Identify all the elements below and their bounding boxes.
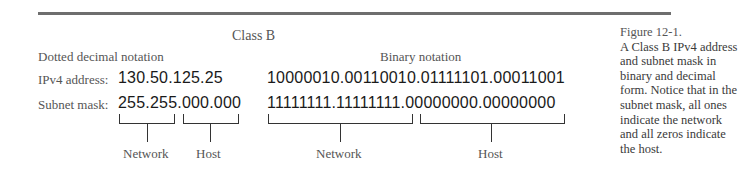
subnet-mask-decimal-host: .000.000: [177, 94, 241, 111]
ipv4-address-binary: 10000010.00110010.01111101.00011001: [267, 69, 565, 87]
decimal-network-stem: [147, 124, 148, 142]
binary-network-stem: [340, 124, 341, 142]
ipv4-address-decimal: 130.50.125.25: [118, 69, 223, 87]
figure-number: Figure 12-1.: [620, 25, 738, 40]
binary-network-label: Network: [316, 146, 362, 162]
caption-text: A Class B IPv4 address and subnet mask i…: [620, 40, 738, 157]
subnet-mask-label: Subnet mask:: [38, 97, 108, 113]
decimal-host-bracket: [183, 114, 239, 124]
decimal-network-bracket: [119, 114, 175, 124]
decimal-host-stem: [210, 124, 211, 142]
figure-caption: Figure 12-1. A Class B IPv4 address and …: [620, 25, 738, 156]
binary-host-stem: [491, 124, 492, 142]
subnet-mask-decimal: 255.255.000.000: [118, 94, 241, 112]
decimal-column-heading: Dotted decimal notation: [38, 49, 164, 65]
subnet-mask-decimal-network: 255.255: [118, 94, 177, 111]
subnet-mask-binary-host: .00000000.00000000: [401, 94, 556, 111]
decimal-host-label: Host: [196, 146, 221, 162]
subnet-mask-binary-network: 11111111.11111111: [267, 94, 401, 111]
ipv4-address-label: IPv4 address:: [38, 72, 108, 88]
subnet-mask-binary: 11111111.11111111.00000000.00000000: [267, 94, 555, 112]
top-rule: [38, 12, 671, 15]
binary-column-heading: Binary notation: [380, 49, 461, 65]
class-title: Class B: [232, 28, 275, 44]
binary-host-label: Host: [478, 146, 503, 162]
decimal-network-label: Network: [123, 146, 169, 162]
binary-network-bracket: [268, 114, 413, 124]
binary-host-bracket: [420, 114, 565, 124]
